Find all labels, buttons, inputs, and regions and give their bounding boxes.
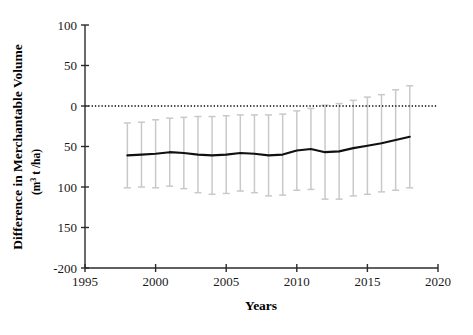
x-tick-label: 2005 [213,274,239,289]
x-tick-label: 2015 [354,274,380,289]
x-axis-title: Years [245,298,277,313]
y-axis-units-tail: t /ha) [30,149,43,178]
y-axis-units-base: (m [30,181,43,195]
x-tick-label: 2020 [425,274,451,289]
y-axis-units: (m3 t /ha) [29,149,43,195]
x-tick-label: 2000 [143,274,169,289]
y-tick-label: 50 [64,58,77,73]
y-tick-label: 150 [58,220,78,235]
difference-in-merchantable-volume-line-chart: 10050050100150-200 199520002005201020152… [0,0,473,335]
y-tick-label: 0 [71,99,78,114]
x-tick-label: 2010 [284,274,310,289]
y-axis-title: Difference in Merchantable Volume [10,44,25,249]
y-tick-label: 50 [64,139,77,154]
y-tick-label: 100 [58,180,78,195]
y-tick-label: 100 [58,18,78,33]
x-tick-label: 1995 [72,274,98,289]
chart-figure: 10050050100150-200 199520002005201020152… [0,0,473,335]
